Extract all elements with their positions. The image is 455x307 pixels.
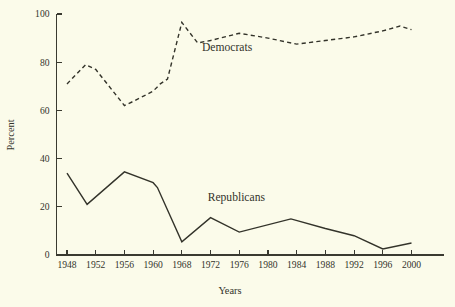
- y-axis-title: Percent: [5, 119, 16, 150]
- y-axis-tick-label: 80: [40, 57, 50, 68]
- y-axis-tick-labels: 020406080100: [35, 8, 50, 260]
- x-axis-tick-label: 1984: [287, 259, 306, 270]
- x-axis-tick-label: 1980: [258, 259, 277, 270]
- x-axis-tick-label: 1976: [230, 259, 249, 270]
- y-axis-tick-label: 60: [40, 105, 50, 116]
- series-label-democrats: Democrats: [202, 41, 253, 54]
- x-axis-tick-label: 1948: [57, 259, 76, 270]
- series-group: [67, 22, 412, 249]
- y-axis-tick-label: 100: [35, 8, 50, 19]
- x-axis-tick-label: 1996: [373, 259, 392, 270]
- x-axis-tick-label: 2000: [402, 259, 421, 270]
- series-line-democrats: [67, 22, 412, 105]
- y-axis-tick-label: 40: [40, 153, 50, 164]
- y-axis-tick-label: 20: [40, 201, 50, 212]
- y-axis-tick-label: 0: [45, 249, 50, 260]
- series-label-republicans: Republicans: [208, 191, 266, 204]
- line-chart: 020406080100 194819521956196019681972197…: [0, 0, 455, 307]
- x-axis-tick-labels: 1948195219561960196819721976198019841988…: [57, 259, 421, 270]
- y-axis-ticks: [57, 14, 63, 255]
- x-axis-tick-label: 1960: [144, 259, 163, 270]
- chart-container: 020406080100 194819521956196019681972197…: [0, 0, 455, 307]
- series-annotations: DemocratsRepublicans: [202, 41, 266, 203]
- x-axis-ticks: [67, 250, 412, 256]
- x-axis-title: Years: [218, 285, 241, 296]
- x-axis-tick-label: 1968: [172, 259, 191, 270]
- x-axis-tick-label: 1972: [201, 259, 220, 270]
- x-axis-tick-label: 1956: [115, 259, 134, 270]
- series-line-republicans: [67, 172, 412, 249]
- x-axis-tick-label: 1952: [86, 259, 105, 270]
- x-axis-tick-label: 1992: [344, 259, 363, 270]
- x-axis-tick-label: 1988: [316, 259, 335, 270]
